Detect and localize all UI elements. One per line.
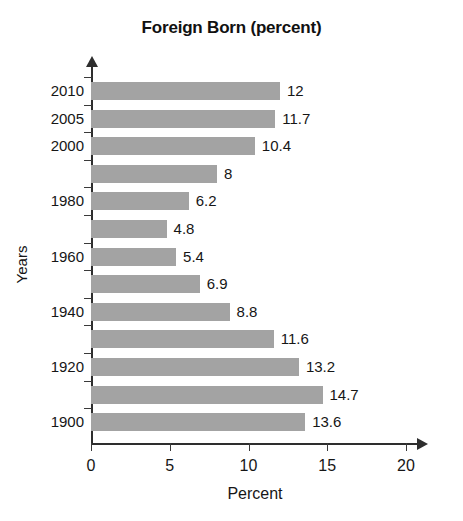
bar	[91, 82, 280, 100]
bar-chart-figure: Foreign Born (percent) 1211.710.486.24.8…	[0, 0, 463, 521]
bar-value-label: 13.6	[312, 413, 341, 431]
y-axis-arrow-icon	[86, 56, 98, 67]
bar-value-label: 13.2	[306, 358, 335, 376]
y-axis-tick-mark	[84, 298, 92, 299]
x-axis-tick-mark	[91, 443, 92, 451]
x-axis-tick-mark	[170, 443, 171, 451]
bar	[91, 137, 255, 155]
bar-value-label: 8.8	[237, 303, 258, 321]
plot-area: 1211.710.486.24.85.46.98.811.613.214.713…	[0, 0, 463, 521]
bar-value-label: 10.4	[262, 137, 291, 155]
y-axis-tick-label: 2005	[0, 110, 84, 128]
x-axis-tick-label: 10	[224, 457, 274, 475]
bar	[91, 165, 217, 183]
y-axis-tick-label: 1920	[0, 358, 84, 376]
x-axis-tick-mark	[406, 443, 407, 451]
y-axis-tick-mark	[84, 215, 92, 216]
bar	[91, 248, 176, 266]
bar	[91, 330, 274, 348]
bar	[91, 192, 189, 210]
x-axis-arrow-icon	[417, 438, 428, 450]
bar	[91, 386, 323, 404]
bar-value-label: 6.9	[207, 275, 228, 293]
x-axis-line	[91, 443, 419, 445]
bar	[91, 413, 305, 431]
x-axis-tick-label: 15	[302, 457, 352, 475]
y-axis-tick-label: 2010	[0, 82, 84, 100]
bar	[91, 275, 200, 293]
y-axis-tick-label: 1940	[0, 303, 84, 321]
bar	[91, 220, 167, 238]
x-axis-tick-mark	[249, 443, 250, 451]
y-axis-tick-mark	[84, 132, 92, 133]
bar-value-label: 5.4	[183, 248, 204, 266]
x-axis-tick-label: 20	[381, 457, 431, 475]
y-axis-tick-label: 2000	[0, 137, 84, 155]
bar-value-label: 14.7	[330, 386, 359, 404]
y-axis-tick-label: 1980	[0, 192, 84, 210]
y-axis-tick-mark	[84, 408, 92, 409]
x-axis-title: Percent	[91, 485, 419, 503]
y-axis-tick-mark	[84, 160, 92, 161]
bar-value-label: 11.6	[281, 330, 309, 348]
bar-value-label: 12	[287, 82, 304, 100]
y-axis-tick-mark	[84, 77, 92, 78]
y-axis-tick-mark	[84, 325, 92, 326]
y-axis-tick-mark	[84, 243, 92, 244]
bar	[91, 303, 230, 321]
x-axis-tick-label: 5	[145, 457, 195, 475]
x-axis-tick-mark	[327, 443, 328, 451]
y-axis-tick-label: 1900	[0, 413, 84, 431]
y-axis-tick-mark	[84, 381, 92, 382]
bar	[91, 358, 299, 376]
y-axis-tick-mark	[84, 105, 92, 106]
x-axis-tick-label: 0	[66, 457, 116, 475]
y-axis-title: Years	[13, 230, 30, 300]
bar-value-label: 6.2	[196, 192, 217, 210]
y-axis-tick-mark	[84, 270, 92, 271]
bar-value-label: 8	[224, 165, 232, 183]
bar	[91, 110, 275, 128]
bar-value-label: 11.7	[282, 110, 310, 128]
bar-value-label: 4.8	[174, 220, 195, 238]
y-axis-tick-mark	[84, 353, 92, 354]
y-axis-tick-mark	[84, 187, 92, 188]
